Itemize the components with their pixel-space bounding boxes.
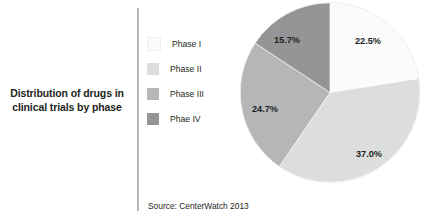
chart-title-line-1: Distribution of drugs in xyxy=(10,87,124,99)
pie-slice-label: 22.5% xyxy=(355,36,381,46)
page-title: Distribution of drugs in clinical trials… xyxy=(6,86,128,114)
legend-label: Phae IV xyxy=(170,114,201,124)
chart-title-line-2: clinical trials by phase xyxy=(12,101,122,113)
legend-label: Phase III xyxy=(170,89,204,99)
pie-chart: 22.5%37.0%24.7%15.7% xyxy=(240,2,420,183)
chart-figure: Distribution of drugs in clinical trials… xyxy=(0,0,439,221)
legend-label: Phase I xyxy=(172,39,201,49)
legend-item-phase-iii: Phase III xyxy=(147,81,242,106)
pie-slice[interactable] xyxy=(330,3,419,93)
vertical-divider xyxy=(137,8,139,211)
legend-item-phase-iv: Phae IV xyxy=(147,106,242,131)
chart-caption-block: Distribution of drugs in clinical trials… xyxy=(6,86,128,114)
pie-slice-label: 24.7% xyxy=(252,104,278,114)
legend-item-phase-i: Phase I xyxy=(147,31,242,56)
legend-label: Phase II xyxy=(170,64,202,74)
source-note: Source: CenterWatch 2013 xyxy=(148,201,249,211)
chart-legend: Phase I Phase II Phase III Phae IV xyxy=(147,31,242,131)
legend-swatch-icon xyxy=(147,63,159,75)
legend-swatch-icon xyxy=(147,37,161,51)
legend-item-phase-ii: Phase II xyxy=(147,56,242,81)
pie-chart-svg: 22.5%37.0%24.7%15.7% xyxy=(240,2,420,183)
legend-swatch-icon xyxy=(147,113,159,125)
legend-swatch-icon xyxy=(147,88,159,100)
pie-slice-label: 37.0% xyxy=(356,149,382,159)
pie-slice-label: 15.7% xyxy=(274,35,300,45)
pie-slice-group xyxy=(240,3,420,183)
